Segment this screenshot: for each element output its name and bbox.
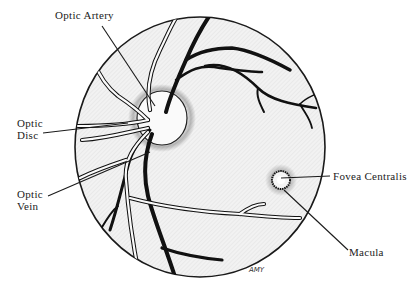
- label-macula: Macula: [349, 246, 384, 258]
- label-optic-artery: Optic Artery: [55, 9, 114, 21]
- retina-diagram: Optic Artery Optic Disc Optic Vein Fovea…: [0, 0, 414, 291]
- fundus-circle: [75, 17, 325, 277]
- label-optic-disc: Optic Disc: [17, 117, 43, 141]
- label-optic-disc-line1: Optic: [17, 117, 43, 129]
- label-optic-vein-line2: Vein: [17, 200, 43, 212]
- label-fovea-centralis: Fovea Centralis: [333, 170, 407, 182]
- label-optic-vein-line1: Optic: [17, 188, 43, 200]
- label-optic-disc-line2: Disc: [17, 129, 43, 141]
- label-optic-vein: Optic Vein: [17, 188, 43, 212]
- artist-signature: AMY: [249, 266, 264, 274]
- fovea-centralis: [277, 176, 285, 184]
